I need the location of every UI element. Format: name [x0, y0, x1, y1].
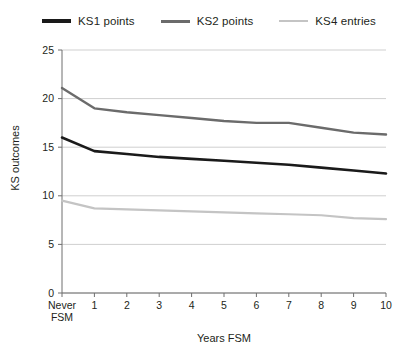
y-tick-labels: 0510152025 [42, 44, 54, 299]
series-line-ks2-points [62, 88, 386, 135]
series-line-ks1-points [62, 137, 386, 173]
x-tick-label-4: 4 [189, 299, 195, 311]
plot-svg: 0510152025 NeverFSM12345678910 [0, 0, 418, 360]
x-tick-marks [62, 293, 386, 297]
y-tick-label-20: 20 [42, 92, 54, 104]
y-tick-label-25: 25 [42, 44, 54, 56]
y-tick-label-5: 5 [48, 238, 54, 250]
x-tick-label-3: 3 [156, 299, 162, 311]
x-tick-label-7: 7 [286, 299, 292, 311]
x-tick-label-5: 5 [221, 299, 227, 311]
y-tick-label-10: 10 [42, 189, 54, 201]
x-tick-labels: NeverFSM12345678910 [48, 299, 392, 323]
x-tick-label-9: 9 [351, 299, 357, 311]
series-line-ks4-entries [62, 201, 386, 219]
x-axis-title: Years FSM [62, 332, 386, 344]
series-lines [62, 88, 386, 219]
x-tick-label-10: 10 [380, 299, 392, 311]
y-tick-marks [58, 50, 62, 293]
gridlines [62, 50, 386, 293]
x-tick-label-0-line1: Never [48, 299, 77, 311]
x-tick-label-2: 2 [124, 299, 130, 311]
x-tick-label-6: 6 [253, 299, 259, 311]
chart-container: KS1 points KS2 points KS4 entries 051015… [0, 0, 418, 360]
y-tick-label-15: 15 [42, 141, 54, 153]
x-tick-label-0-line2: FSM [51, 311, 73, 323]
x-tick-label-8: 8 [318, 299, 324, 311]
y-axis-title: KS outcomes [9, 110, 21, 206]
y-tick-label-0: 0 [48, 287, 54, 299]
plot-area: 0510152025 NeverFSM12345678910 KS outcom… [0, 0, 418, 360]
x-tick-label-1: 1 [91, 299, 97, 311]
